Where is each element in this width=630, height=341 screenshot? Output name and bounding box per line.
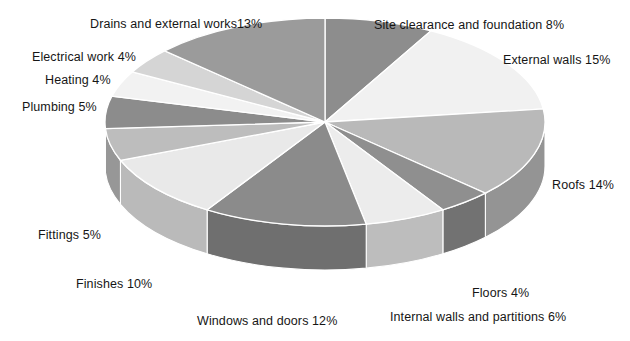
pie-label-windows-doors: Windows and doors 12%: [197, 314, 337, 328]
pie-label-drains: Drains and external works13%: [90, 17, 262, 31]
pie-label-site-clearance: Site clearance and foundation 8%: [374, 18, 564, 32]
pie-top-face: Site clearance and foundation 8%External…: [105, 18, 545, 226]
pie-label-external-walls: External walls 15%: [503, 53, 610, 67]
pie-label-heating: Heating 4%: [45, 73, 111, 87]
pie-label-finishes: Finishes 10%: [76, 277, 152, 291]
pie-label-roofs: Roofs 14%: [552, 178, 614, 192]
pie-label-fittings: Fittings 5%: [38, 228, 101, 242]
pie-label-plumbing: Plumbing 5%: [22, 100, 97, 114]
pie-label-internal-walls: Internal walls and partitions 6%: [390, 310, 566, 324]
pie-chart: Site clearance and foundation 8%External…: [0, 0, 630, 341]
pie-label-floors: Floors 4%: [472, 286, 529, 300]
pie-label-electrical-work: Electrical work 4%: [32, 50, 136, 64]
